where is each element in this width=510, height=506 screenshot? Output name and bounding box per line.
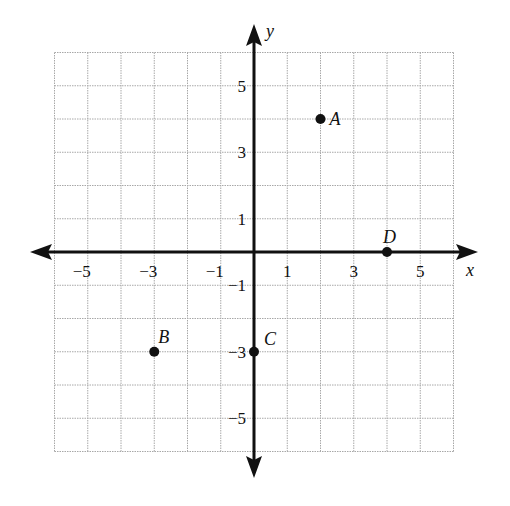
x-tick-label: 3 [350,262,359,281]
y-tick-label: −1 [228,276,246,295]
point-label: A [329,109,342,129]
y-tick-label: 1 [238,210,247,229]
point-marker [149,347,159,357]
y-tick-label: 3 [238,143,247,162]
y-tick-label: −5 [228,409,246,428]
x-tick-label: −3 [139,262,157,281]
y-tick-label: 5 [238,77,247,96]
point-label: D [382,227,396,247]
y-tick-label: −3 [228,343,246,362]
point-marker [249,347,259,357]
x-axis-label: x [465,260,474,280]
point-label: B [158,327,169,347]
x-tick-label: 1 [283,262,292,281]
data-points: ABCD [149,109,396,357]
point-b: B [149,327,169,357]
point-marker [316,114,326,124]
x-tick-label: −1 [206,262,224,281]
axes: x y [30,21,478,478]
point-marker [382,247,392,257]
coordinate-plane: x y −5−3−1135531−1−3−5 ABCD [0,0,510,506]
y-axis-label: y [264,21,274,41]
point-label: C [264,329,277,349]
x-tick-label: −5 [73,262,91,281]
x-tick-label: 5 [416,262,425,281]
